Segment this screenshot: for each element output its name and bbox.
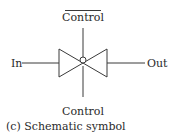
input-label: In <box>11 57 22 70</box>
control-bar-label: Control <box>62 11 104 24</box>
left-triangle-icon <box>59 49 83 77</box>
transmission-gate-diagram: Control In Out Control (c) Schematic sym… <box>0 0 171 134</box>
right-triangle-icon <box>83 49 107 77</box>
output-label: Out <box>147 57 168 70</box>
figure-caption: (c) Schematic symbol <box>6 120 126 133</box>
control-label: Control <box>62 105 104 118</box>
inversion-bubble-icon <box>80 57 86 63</box>
